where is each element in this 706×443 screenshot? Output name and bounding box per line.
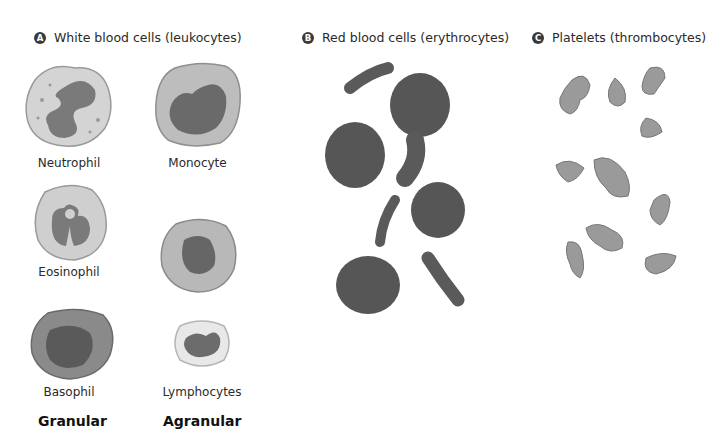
section-a-header: A White blood cells (leukocytes) [34,30,242,45]
basophil-label: Basophil [24,385,114,399]
section-a-title: White blood cells (leukocytes) [54,30,242,45]
section-c-title: Platelets (thrombocytes) [552,30,706,45]
eosinophil-cell-image [30,180,110,262]
section-b-badge: B [302,32,314,44]
section-c-badge: C [532,32,544,44]
eosinophil-label: Eosinophil [24,265,114,279]
rbc-cluster-image [320,60,470,320]
agranular-label: Agranular [163,413,241,429]
section-b-title: Red blood cells (erythrocytes) [322,30,509,45]
neutrophil-label: Neutrophil [24,156,114,170]
basophil-cell-image [28,305,116,381]
lymphocytes-label: Lymphocytes [152,385,252,399]
section-b-header: B Red blood cells (erythrocytes) [302,30,509,45]
section-a-badge: A [34,32,46,44]
granular-label: Granular [38,413,107,429]
agranular-cell-image [158,214,240,294]
neutrophil-cell-image [20,60,115,150]
platelets-cluster-image [550,60,690,285]
monocyte-label: Monocyte [150,156,245,170]
monocyte-cell-image [150,58,245,150]
lymphocyte-cell-image [172,318,232,368]
section-c-header: C Platelets (thrombocytes) [532,30,706,45]
